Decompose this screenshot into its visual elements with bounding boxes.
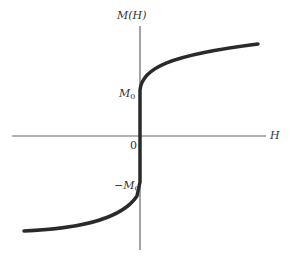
magnetization-diagram: [0, 0, 293, 263]
m0-label: M0: [119, 88, 135, 101]
magnetization-curve: [24, 44, 258, 231]
h-axis-label: H: [270, 130, 280, 141]
origin-label: 0: [130, 140, 137, 151]
neg-m0-label: −M0: [114, 180, 140, 193]
m-axis-label: M(H): [117, 10, 146, 21]
